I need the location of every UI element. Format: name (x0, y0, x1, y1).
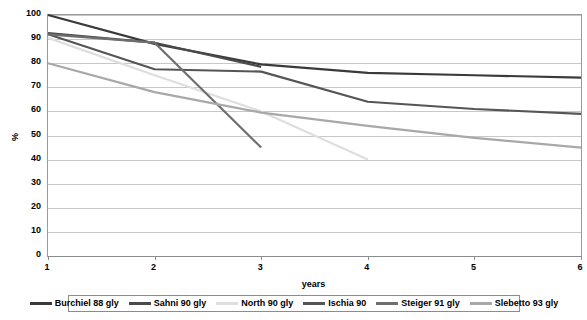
legend-swatch-icon (303, 302, 325, 305)
x-tick-mark (581, 256, 582, 260)
y-tick-label: 30 (11, 178, 41, 187)
x-tick-label: 6 (570, 263, 587, 272)
y-tick-label: 40 (11, 154, 41, 163)
legend-item[interactable]: Ischia 90 (298, 298, 371, 309)
x-tick-mark (368, 256, 369, 260)
legend-label: Steiger 91 gly (401, 298, 460, 309)
legend-item[interactable]: North 90 gly (211, 298, 298, 309)
x-tick-mark (155, 256, 156, 260)
y-axis-title: % (10, 132, 20, 140)
legend-label: North 90 gly (241, 298, 293, 309)
legend-swatch-icon (30, 302, 52, 305)
x-tick-label: 5 (463, 263, 483, 272)
x-tick-label: 2 (144, 263, 164, 272)
x-tick-label: 4 (357, 263, 377, 272)
line-chart: 1009080706050403020100 123456 % years Bu… (0, 0, 587, 320)
y-tick-label: 100 (11, 9, 41, 18)
series-layer (48, 15, 581, 256)
x-tick-label: 3 (250, 263, 270, 272)
series-line (48, 38, 368, 160)
series-line (48, 34, 581, 114)
x-tick-label: 1 (37, 263, 57, 272)
chart-legend: Burchiel 88 glySahni 90 glyNorth 90 glyI… (68, 295, 520, 312)
legend-item[interactable]: Sahni 90 gly (124, 298, 212, 309)
plot-area (47, 14, 582, 257)
x-tick-mark (261, 256, 262, 260)
gridline-0 (48, 256, 581, 257)
x-axis-title: years (284, 279, 344, 289)
legend-label: Burchiel 88 gly (55, 298, 119, 309)
x-tick-mark (48, 256, 49, 260)
legend-swatch-icon (129, 302, 151, 305)
y-tick-label: 0 (11, 250, 41, 259)
y-tick-label: 80 (11, 57, 41, 66)
series-line (48, 34, 261, 147)
legend-label: Slebetto 93 gly (495, 298, 559, 309)
x-tick-mark (474, 256, 475, 260)
legend-swatch-icon (376, 302, 398, 305)
legend-item[interactable]: Burchiel 88 gly (25, 298, 124, 309)
legend-item[interactable]: Steiger 91 gly (371, 298, 465, 309)
y-tick-label: 70 (11, 81, 41, 90)
y-tick-label: 90 (11, 33, 41, 42)
y-tick-label: 10 (11, 226, 41, 235)
legend-label: Ischia 90 (328, 298, 366, 309)
legend-swatch-icon (470, 302, 492, 305)
y-tick-label: 20 (11, 202, 41, 211)
legend-swatch-icon (216, 302, 238, 305)
y-tick-label: 60 (11, 105, 41, 114)
series-line (48, 15, 581, 78)
legend-item[interactable]: Slebetto 93 gly (465, 298, 564, 309)
legend-label: Sahni 90 gly (154, 298, 207, 309)
